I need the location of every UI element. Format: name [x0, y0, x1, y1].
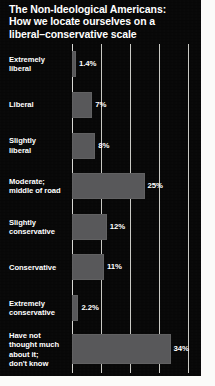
bar — [72, 133, 95, 159]
bar — [72, 92, 92, 118]
bar-value-label: 11% — [107, 262, 122, 271]
bar — [72, 214, 107, 240]
bar — [72, 254, 104, 280]
chart-row: Extremely conservative2.2% — [0, 288, 201, 329]
chart-row: Liberal7% — [0, 85, 201, 126]
bar-value-label: 34% — [174, 344, 189, 353]
bar — [72, 334, 171, 364]
chart-row: Slightly liberal8% — [0, 125, 201, 166]
bar-value-label: 2.2% — [81, 303, 98, 312]
category-label: Extremely liberal — [9, 55, 67, 73]
bar — [72, 51, 76, 77]
chart-figure: The Non-Ideological Americans: How we lo… — [0, 0, 215, 386]
category-label: Extremely conservative — [9, 299, 67, 317]
chart-row: Extremely liberal1.4% — [0, 44, 201, 85]
bar — [72, 173, 145, 199]
bar-value-label: 12% — [110, 222, 125, 231]
category-label: Slightly conservative — [9, 218, 67, 236]
page-right-margin — [201, 0, 215, 386]
chart-row: Conservative11% — [0, 247, 201, 288]
bar — [72, 295, 78, 321]
bar-value-label: 1.4% — [79, 59, 96, 68]
chart-panel: The Non-Ideological Americans: How we lo… — [0, 0, 201, 376]
category-label: Liberal — [9, 100, 67, 109]
chart-title: The Non-Ideological Americans: How we lo… — [9, 3, 189, 40]
chart-row: Have not thought much about it; don't kn… — [0, 328, 201, 369]
page-bottom-margin — [0, 376, 215, 386]
chart-row: Moderate; middle of road25% — [0, 166, 201, 207]
bar-value-label: 8% — [98, 141, 109, 150]
category-label: Moderate; middle of road — [9, 177, 67, 195]
bar-value-label: 7% — [95, 100, 106, 109]
category-label: Conservative — [9, 263, 67, 272]
category-label: Have not thought much about it; don't kn… — [9, 331, 67, 368]
bar-value-label: 25% — [148, 181, 163, 190]
plot-area: Extremely liberal1.4%Liberal7%Slightly l… — [0, 44, 201, 369]
chart-row: Slightly conservative12% — [0, 207, 201, 248]
category-label: Slightly liberal — [9, 136, 67, 154]
